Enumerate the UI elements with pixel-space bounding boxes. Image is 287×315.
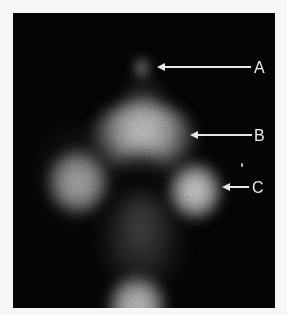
arrow-a-line	[163, 66, 251, 68]
label-c: C	[252, 180, 264, 196]
label-a: A	[254, 60, 265, 76]
artifact-speck	[241, 163, 243, 167]
arrow-c-line	[228, 186, 249, 188]
scan-image: A B C	[13, 13, 275, 308]
label-b: B	[254, 128, 265, 144]
scan-grain	[13, 13, 275, 308]
arrow-b-line	[196, 134, 252, 136]
